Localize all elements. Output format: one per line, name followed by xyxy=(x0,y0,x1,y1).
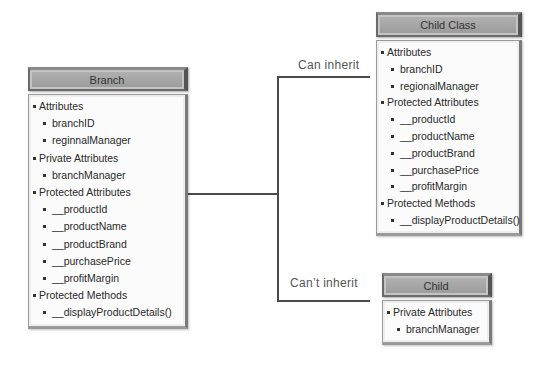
class-child: Child Private Attributes branchManager xyxy=(382,273,492,345)
class-item: Private Attributes xyxy=(386,304,487,321)
class-item: __profitMargin xyxy=(32,270,183,287)
class-item: Protected Methods xyxy=(380,195,517,212)
class-item: Attributes xyxy=(32,98,183,115)
class-item: Protected Attributes xyxy=(32,184,183,201)
can-inherit-label: Can inherit xyxy=(298,58,359,72)
branch-connector-line xyxy=(187,193,278,195)
class-item: branchID xyxy=(380,61,517,78)
class-item: __productId xyxy=(380,111,517,128)
class-item: Protected Methods xyxy=(32,287,183,304)
class-item: Attributes xyxy=(380,44,517,61)
class-item: __productName xyxy=(380,128,517,145)
class-item: __productName xyxy=(32,218,183,235)
class-item: Private Attributes xyxy=(32,150,183,167)
class-item: reginnalManager xyxy=(32,132,183,149)
class-child-class-header: Child Class xyxy=(376,12,522,37)
class-item: __productBrand xyxy=(32,236,183,253)
cant-inherit-line xyxy=(277,300,370,302)
cant-inherit-label: Can’t inherit xyxy=(290,276,358,290)
class-child-body: Private Attributes branchManager xyxy=(382,300,492,345)
class-item: Protected Attributes xyxy=(380,94,517,111)
class-child-header: Child xyxy=(382,273,492,297)
class-child-class: Child Class Attributes branchID regional… xyxy=(376,12,522,236)
class-item: __productBrand xyxy=(380,145,517,162)
class-item: regionalManager xyxy=(380,78,517,95)
class-item: branchManager xyxy=(386,321,487,338)
vertical-trunk-line xyxy=(277,76,279,301)
class-item: __purchasePrice xyxy=(380,162,517,179)
class-item: __productId xyxy=(32,201,183,218)
class-item: branchID xyxy=(32,115,183,132)
class-branch: Branch Attributes branchID reginnalManag… xyxy=(28,67,188,329)
can-inherit-line xyxy=(277,76,370,78)
class-child-class-body: Attributes branchID regionalManager Prot… xyxy=(376,40,522,236)
class-branch-header: Branch xyxy=(28,67,188,91)
class-item: __displayProductDetails() xyxy=(380,212,517,229)
class-item: __purchasePrice xyxy=(32,253,183,270)
class-branch-body: Attributes branchID reginnalManager Priv… xyxy=(28,94,188,329)
class-item: branchManager xyxy=(32,167,183,184)
class-item: __displayProductDetails() xyxy=(32,304,183,321)
class-item: __profitMargin xyxy=(380,178,517,195)
